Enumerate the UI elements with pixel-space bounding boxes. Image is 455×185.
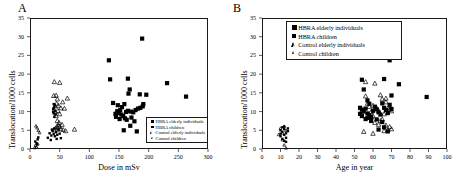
x-axis-label-a: Dose in mSv [30, 163, 208, 172]
panel-a-letter: A [18, 2, 27, 14]
y-tick-label: 0 [253, 146, 256, 152]
open-triangle-icon [149, 136, 155, 140]
figure-two-panel-scatter: A Translocation/1000 cells Dose in mSv H… [0, 0, 455, 185]
filled-square-icon [290, 33, 298, 39]
y-tick-label: 20 [18, 71, 24, 77]
y-tick-label: 35 [250, 15, 256, 21]
legend-item: Control elderly individuals [290, 41, 398, 48]
legend-item: HBRA elderly individuals [149, 119, 205, 124]
filled-square-icon [290, 24, 298, 30]
x-tick-label: 80 [407, 154, 413, 160]
open-triangle-icon [290, 42, 298, 48]
legend-item: Control children [290, 50, 398, 57]
legend-a: HBRA elderly individualsHBRA childrenCon… [146, 117, 208, 143]
x-tick-label: 50 [352, 154, 358, 160]
legend-label: HBRA elderly individuals [156, 119, 204, 124]
x-tick-label: 70 [389, 154, 395, 160]
y-tick-label: 30 [250, 34, 256, 40]
legend-item: HBRA elderly individuals [290, 24, 398, 31]
filled-square-icon [149, 125, 155, 129]
x-tick-label: 0 [261, 154, 264, 160]
legend-b: HBRA elderly individualsHBRA childrenCon… [286, 21, 402, 60]
legend-label: HBRA children [298, 33, 337, 40]
y-axis-label-a: Translocation/1000 cells [8, 70, 17, 149]
y-axis-label-b: Translocation/1000 cells [240, 70, 249, 149]
legend-item: HBRA children [149, 125, 205, 130]
x-tick-label: 200 [144, 154, 153, 160]
panel-b: B Translocation/1000 cells Age in year H… [228, 0, 455, 185]
legend-label: Control children [298, 50, 339, 57]
x-tick-label: 0 [29, 154, 32, 160]
open-triangle-icon [149, 131, 155, 135]
legend-label: Control elderly individuals [298, 41, 365, 48]
y-tick-label: 30 [18, 34, 24, 40]
legend-item: Control children [149, 136, 205, 141]
x-tick-label: 250 [174, 154, 183, 160]
x-tick-label: 100 [443, 154, 452, 160]
y-tick-label: 25 [18, 52, 24, 58]
x-tick-label: 300 [204, 154, 213, 160]
y-tick-label: 5 [21, 127, 24, 133]
y-tick-label: 5 [253, 127, 256, 133]
y-tick-label: 15 [250, 90, 256, 96]
x-tick-label: 150 [115, 154, 124, 160]
y-tick-label: 35 [18, 15, 24, 21]
open-triangle-icon [290, 50, 298, 56]
x-tick-label: 100 [85, 154, 94, 160]
y-tick-label: 0 [21, 146, 24, 152]
x-tick-label: 10 [278, 154, 284, 160]
x-tick-label: 40 [333, 154, 339, 160]
legend-item: Control elderly individuals [149, 130, 205, 135]
x-tick-label: 90 [426, 154, 432, 160]
y-tick-label: 10 [250, 109, 256, 115]
y-tick-label: 25 [250, 52, 256, 58]
x-axis-label-b: Age in year [262, 163, 447, 172]
panel-b-letter: B [233, 2, 241, 14]
legend-label: HBRA elderly individuals [298, 24, 363, 31]
y-tick-label: 10 [18, 109, 24, 115]
x-tick-label: 50 [57, 154, 63, 160]
legend-item: HBRA children [290, 33, 398, 40]
legend-label: Control children [156, 136, 186, 141]
panel-a: A Translocation/1000 cells Dose in mSv H… [0, 0, 227, 185]
legend-label: Control elderly individuals [156, 130, 206, 135]
y-tick-label: 20 [250, 71, 256, 77]
x-tick-label: 20 [296, 154, 302, 160]
filled-square-icon [149, 119, 155, 123]
y-tick-label: 15 [18, 90, 24, 96]
legend-label: HBRA children [156, 125, 185, 130]
x-tick-label: 30 [315, 154, 321, 160]
x-tick-label: 60 [370, 154, 376, 160]
